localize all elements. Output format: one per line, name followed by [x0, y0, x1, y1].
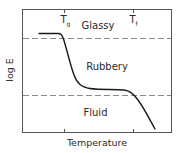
y-axis-label: log E	[4, 58, 15, 82]
rubbery-region-label: Rubbery	[86, 61, 128, 72]
glassy-region-label: Glassy	[82, 20, 115, 31]
modulus-temperature-diagram: Tg Tf Glassy Rubbery Fluid Temperature l…	[0, 0, 184, 153]
tf-label: Tf	[129, 14, 139, 27]
x-axis-label: Temperature	[66, 137, 127, 148]
tg-label: Tg	[60, 14, 71, 28]
fluid-region-label: Fluid	[84, 107, 108, 118]
